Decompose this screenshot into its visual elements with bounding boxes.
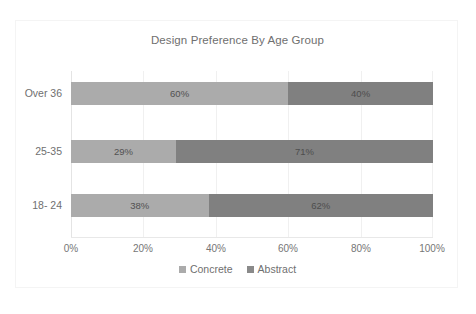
x-tick-label: 80%	[351, 243, 371, 254]
bar-row[interactable]: 25-35 29% 71%	[71, 140, 433, 163]
bar-segment-concrete[interactable]: 29%	[71, 140, 176, 163]
bar-segment-concrete[interactable]: 60%	[71, 82, 288, 105]
x-axis-line	[71, 237, 433, 238]
chart-legend: Concrete Abstract	[16, 263, 459, 275]
bar-row[interactable]: Over 36 60% 40%	[71, 82, 433, 105]
category-label-25-35: 25-35	[0, 140, 62, 163]
bar-segment-abstract[interactable]: 71%	[176, 140, 433, 163]
legend-label: Concrete	[190, 263, 233, 275]
bar-value-label: 40%	[351, 88, 370, 99]
plot-area: Over 36 60% 40% 25-35 29% 71% 18- 24 38%	[71, 71, 433, 238]
legend-item-concrete[interactable]: Concrete	[179, 263, 233, 275]
bar-segment-concrete[interactable]: 38%	[71, 194, 209, 217]
x-tick-label: 20%	[133, 243, 153, 254]
category-label-18-24: 18- 24	[0, 194, 62, 217]
bar-segment-abstract[interactable]: 62%	[209, 194, 433, 217]
bar-segment-abstract[interactable]: 40%	[288, 82, 433, 105]
figure-caption	[0, 299, 476, 314]
x-tick-label: 40%	[206, 243, 226, 254]
chart-figure: Design Preference By Age Group Over 36 6…	[15, 20, 458, 288]
category-label-over-36: Over 36	[0, 82, 62, 105]
bar-row[interactable]: 18- 24 38% 62%	[71, 194, 433, 217]
legend-swatch-icon	[247, 266, 254, 273]
bar-value-label: 71%	[295, 146, 314, 157]
x-tick-label: 100%	[419, 243, 445, 254]
legend-label: Abstract	[258, 263, 297, 275]
x-tick-label: 60%	[278, 243, 298, 254]
legend-item-abstract[interactable]: Abstract	[247, 263, 297, 275]
legend-swatch-icon	[179, 266, 186, 273]
bar-value-label: 60%	[170, 88, 189, 99]
chart-title: Design Preference By Age Group	[16, 34, 459, 46]
x-tick-label: 0%	[64, 243, 78, 254]
bar-value-label: 29%	[114, 146, 133, 157]
bar-value-label: 62%	[311, 200, 330, 211]
bar-value-label: 38%	[130, 200, 149, 211]
